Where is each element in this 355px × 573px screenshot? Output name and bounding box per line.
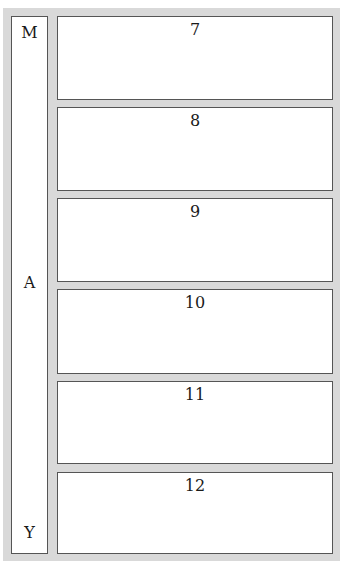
month-label-column: M A Y — [11, 16, 48, 554]
month-letter-a: A — [12, 273, 47, 292]
day-number: 10 — [58, 293, 332, 312]
day-box-7[interactable]: 7 — [57, 16, 333, 100]
month-letter-y: Y — [12, 523, 47, 542]
day-number: 11 — [58, 385, 332, 404]
day-box-8[interactable]: 8 — [57, 107, 333, 191]
day-number: 9 — [58, 202, 332, 221]
day-number: 7 — [58, 20, 332, 39]
month-letter-m: M — [12, 23, 47, 42]
day-box-10[interactable]: 10 — [57, 289, 333, 374]
day-box-9[interactable]: 9 — [57, 198, 333, 282]
day-number: 8 — [58, 111, 332, 130]
day-box-12[interactable]: 12 — [57, 472, 333, 554]
day-number: 12 — [58, 476, 332, 495]
day-box-11[interactable]: 11 — [57, 381, 333, 464]
